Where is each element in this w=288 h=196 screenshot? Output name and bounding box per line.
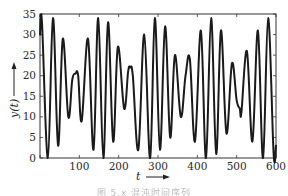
y-axis-label: y(t) xyxy=(8,62,21,119)
figure-caption: 图 5.x 混沌时间序列 xyxy=(0,186,288,196)
time-series-chart: 05101520253035 100200300400500600 y(t) t xyxy=(0,0,288,196)
x-tick-label: 200 xyxy=(109,160,129,172)
y-axis-title: y(t) xyxy=(8,99,21,119)
y-tick-label: 0 xyxy=(29,152,36,164)
x-axis-title: t xyxy=(136,170,141,183)
y-tick-label: 20 xyxy=(23,69,36,81)
y-tick-label: 30 xyxy=(23,28,36,40)
y-tick-label: 5 xyxy=(29,131,36,143)
x-tick-label: 500 xyxy=(227,160,247,172)
y-tick-label: 35 xyxy=(23,8,36,20)
x-tick-label: 400 xyxy=(187,160,207,172)
y-tick-label: 15 xyxy=(23,90,36,102)
y-tick-label: 10 xyxy=(23,110,36,122)
x-tick-label: 300 xyxy=(148,160,168,172)
x-axis-arrowhead-icon xyxy=(163,175,170,180)
y-axis-arrowhead-icon xyxy=(12,62,17,69)
series-line xyxy=(40,14,276,162)
x-tick-label: 600 xyxy=(266,160,286,172)
y-tick-label: 25 xyxy=(23,49,36,61)
x-tick-label: 100 xyxy=(69,160,89,172)
